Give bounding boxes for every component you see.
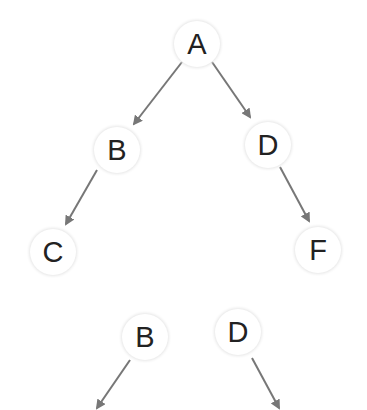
node-label: D [228,316,249,349]
node-b2: B [122,314,168,360]
node-label: D [258,129,279,162]
node-d: D [245,122,291,168]
edge-b2-down [97,360,130,408]
node-label: F [309,234,327,267]
edge-a-d [212,62,250,117]
node-label: A [187,28,206,61]
node-d2: D [215,309,261,355]
node-label: B [107,134,126,167]
node-c: C [30,229,76,275]
edge-d-f [280,167,309,221]
edge-d2-down [252,358,279,408]
edge-a-b [134,62,182,124]
node-f: F [295,227,341,273]
node-a: A [174,21,220,67]
node-label: C [43,236,64,269]
node-label: B [135,321,154,354]
edge-b-c [66,170,97,224]
node-b: B [94,127,140,173]
